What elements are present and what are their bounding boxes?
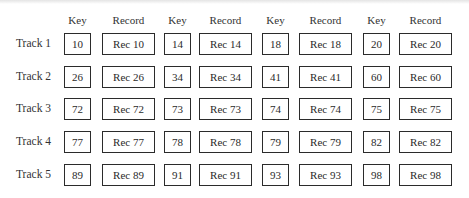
track-label: Track 3: [16, 102, 58, 114]
track-label: Track 1: [16, 37, 58, 49]
record-box: Rec 20: [399, 33, 452, 55]
column-header-key: Key: [262, 14, 289, 26]
record-box: Rec 89: [102, 164, 155, 186]
key-box: 72: [64, 98, 91, 120]
record-box: Rec 41: [299, 66, 352, 88]
record-box: Rec 14: [199, 33, 252, 55]
record-box: Rec 74: [299, 98, 352, 120]
record-box: Rec 78: [199, 131, 252, 153]
column-header-record: Record: [102, 14, 155, 26]
key-box: 20: [363, 33, 390, 55]
record-box: Rec 26: [102, 66, 155, 88]
record-box: Rec 98: [399, 164, 452, 186]
record-box: Rec 75: [399, 98, 452, 120]
record-box: Rec 82: [399, 131, 452, 153]
record-box: Rec 10: [102, 33, 155, 55]
key-box: 82: [363, 131, 390, 153]
key-box: 77: [64, 131, 91, 153]
track-label: Track 4: [16, 135, 58, 147]
key-box: 41: [262, 66, 289, 88]
column-header-key: Key: [164, 14, 191, 26]
record-box: Rec 72: [102, 98, 155, 120]
key-box: 79: [262, 131, 289, 153]
column-header-record: Record: [399, 14, 452, 26]
record-box: Rec 77: [102, 131, 155, 153]
key-box: 93: [262, 164, 289, 186]
record-box: Rec 91: [199, 164, 252, 186]
key-box: 75: [363, 98, 390, 120]
key-box: 89: [64, 164, 91, 186]
key-box: 60: [363, 66, 390, 88]
record-box: Rec 60: [399, 66, 452, 88]
track-label: Track 2: [16, 70, 58, 82]
record-box: Rec 93: [299, 164, 352, 186]
record-box: Rec 34: [199, 66, 252, 88]
key-box: 34: [164, 66, 191, 88]
track-label: Track 5: [16, 168, 58, 180]
column-header-record: Record: [299, 14, 352, 26]
key-box: 91: [164, 164, 191, 186]
record-box: Rec 18: [299, 33, 352, 55]
record-box: Rec 73: [199, 98, 252, 120]
top-edge-shadow: [0, 0, 469, 4]
key-box: 98: [363, 164, 390, 186]
record-box: Rec 79: [299, 131, 352, 153]
key-box: 74: [262, 98, 289, 120]
key-box: 10: [64, 33, 91, 55]
column-header-key: Key: [363, 14, 390, 26]
column-header-key: Key: [64, 14, 91, 26]
key-box: 26: [64, 66, 91, 88]
key-box: 73: [164, 98, 191, 120]
key-box: 78: [164, 131, 191, 153]
key-box: 14: [164, 33, 191, 55]
column-header-record: Record: [199, 14, 252, 26]
key-box: 18: [262, 33, 289, 55]
